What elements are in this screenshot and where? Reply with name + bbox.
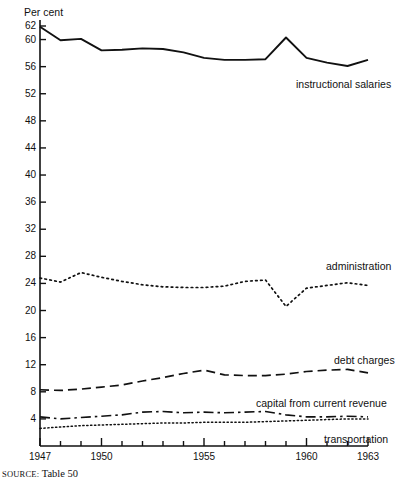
x-axis-ticks (40, 438, 368, 446)
y-axis-tick-label: 20 (0, 305, 36, 316)
series-label-debt-charges: debt charges (334, 354, 395, 366)
y-axis-tick-label: 40 (0, 169, 36, 180)
y-axis-tick-label: 56 (0, 61, 36, 72)
series-line-administration (40, 273, 368, 307)
series-label-instructional-salaries: instructional salaries (296, 78, 391, 90)
x-axis-tick-label: 1963 (348, 451, 388, 462)
y-axis-tick-label: 24 (0, 277, 36, 288)
y-axis-tick-label: 28 (0, 250, 36, 261)
y-axis-tick-label: 32 (0, 223, 36, 234)
y-axis-tick-label: 36 (0, 196, 36, 207)
x-axis-tick-label: 1955 (184, 451, 224, 462)
y-axis-tick-label: 4 (0, 413, 36, 424)
series-line-instructional-salaries (40, 27, 368, 66)
series-line-transportation (40, 419, 368, 428)
x-axis-tick-label: 1950 (82, 451, 122, 462)
y-axis-tick-label: 48 (0, 115, 36, 126)
chart-canvas (0, 0, 405, 483)
y-axis-tick-label: 60 (0, 34, 36, 45)
x-axis-tick-label: 1947 (20, 451, 60, 462)
series-label-capital-from-current-revenue: capital from current revenue (256, 397, 387, 409)
series-label-transportation: transportation (324, 433, 388, 445)
chart-figure: Per cent 481216202428323640444852566062 … (0, 0, 405, 483)
source-note: SOURCE: Table 50 (2, 468, 78, 479)
y-axis-tick-label: 12 (0, 359, 36, 370)
source-note-text: Table 50 (42, 468, 78, 479)
y-axis-tick-label: 62 (0, 20, 36, 31)
y-axis-tick-label: 52 (0, 88, 36, 99)
y-axis-tick-label: 8 (0, 386, 36, 397)
series-label-administration: administration (326, 260, 391, 272)
series-line-debt-charges (40, 369, 368, 390)
x-axis-tick-label: 1960 (287, 451, 327, 462)
y-axis-ticks (40, 26, 46, 419)
y-axis-tick-label: 44 (0, 142, 36, 153)
y-axis-tick-label: 16 (0, 332, 36, 343)
series-line-capital-from-current-revenue (40, 411, 368, 418)
source-note-prefix: SOURCE: (2, 469, 39, 479)
